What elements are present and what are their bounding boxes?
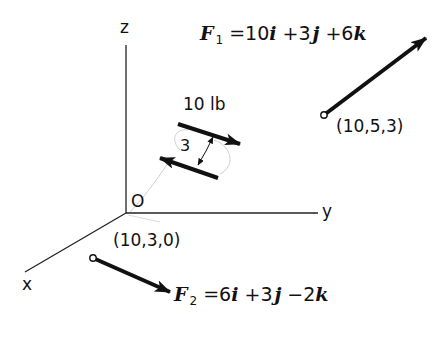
force2-coef-j: 3: [260, 283, 272, 305]
force1-op2: +: [325, 22, 341, 44]
force1-subscript: 1: [216, 33, 224, 47]
force2-symbol: F: [174, 283, 188, 305]
couple-lower-arrow: [160, 158, 218, 178]
force1-equals: =: [229, 22, 245, 44]
force1-coef-j: 3: [298, 22, 310, 44]
origin-label: O: [131, 193, 144, 210]
force2-unit-i: i: [231, 283, 238, 305]
force2-unit-j: j: [274, 283, 281, 305]
force1-op1: +: [283, 22, 299, 44]
z-axis-label: z: [120, 19, 129, 36]
force1-unit-i: i: [269, 22, 276, 44]
force1-unit-k: k: [353, 22, 366, 44]
force2-point-label: (10,3,0): [113, 232, 180, 249]
force1-equation: F1 =10i +3 j +6k: [200, 24, 367, 46]
force2-application-point: [90, 255, 96, 261]
force2-arrow: [93, 258, 170, 292]
force1-arrow: [324, 38, 426, 115]
force1-point-label: (10,5,3): [336, 118, 403, 135]
force1-coef-k: 6: [341, 22, 353, 44]
couple-arm-label: 3: [180, 138, 190, 154]
force2-op2: −: [287, 283, 303, 305]
x-axis-label: x: [22, 276, 32, 293]
force2-op1: +: [244, 283, 260, 305]
x-axis: [25, 213, 126, 272]
force2-equation: F2 =6i +3 j −2k: [174, 285, 329, 307]
force2-coef-i: 6: [219, 283, 231, 305]
origin-guide-line: [128, 215, 160, 222]
force1-coef-i: 10: [245, 22, 269, 44]
force2-unit-k: k: [315, 283, 328, 305]
force2-subscript: 2: [190, 294, 198, 308]
force2-equals: =: [203, 283, 219, 305]
couple-arm-dimension: [206, 137, 213, 151]
y-axis-label: y: [322, 203, 332, 220]
force1-symbol: F: [200, 22, 214, 44]
couple-magnitude-label: 10 lb: [183, 96, 226, 113]
couple-arm-dimension-lower: [198, 151, 206, 165]
force2-coef-k: 2: [303, 283, 315, 305]
force1-unit-j: j: [312, 22, 319, 44]
force1-application-point: [321, 112, 327, 118]
